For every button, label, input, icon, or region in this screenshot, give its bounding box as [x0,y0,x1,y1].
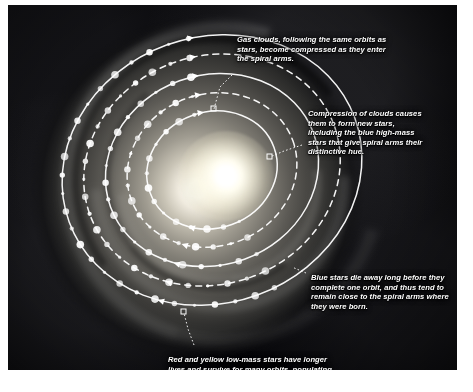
orbit-star-marker [172,301,177,306]
orbit-star-marker [106,197,110,201]
orbit-star-marker [235,258,242,265]
figure-page: Gas clouds, following the same orbits as… [0,0,473,392]
orbit-star-marker [199,264,204,269]
orbit-star-marker [104,242,109,247]
orbit-star-marker [224,280,231,287]
orbit-star-marker [238,220,241,223]
orbit-star-marker [135,136,140,141]
leader-line-gas-clouds [214,75,232,109]
orbit-star-marker [98,86,103,91]
orbit-star-marker [162,211,165,214]
orbit-star-marker [254,252,258,256]
orbit-star-marker [229,242,232,245]
orbit-star-marker [95,124,99,128]
orbit-star-marker [114,129,122,137]
orbit-star-marker [129,152,132,155]
orbit-star-marker [146,249,153,256]
orbit-star-marker [221,224,226,229]
orbit-star-marker [244,234,251,241]
orbit-star-marker [149,274,153,278]
orbit-star-marker [74,118,81,125]
orbit-path-2 [105,69,319,271]
orbit-star-marker [219,264,222,267]
orbit-star-marker [105,107,112,114]
caption-compression: Compression of clouds causes them to for… [308,109,426,157]
orbit-star-marker [111,71,119,79]
orbit-star-marker [108,146,113,151]
orbit-star-marker [145,171,149,175]
orbit-star-marker [102,179,109,186]
orbit-path-1 [130,93,294,247]
orbit-star-marker [82,178,85,181]
orbit-star-marker [116,280,123,287]
orbit-star-marker [160,233,167,240]
orbit-star-marker [129,60,133,64]
orbit-star-marker [146,49,153,56]
orbit-star-marker [133,240,136,243]
orbit-star-marker [177,241,181,245]
orbit-star-marker [163,129,168,134]
orbit-star-marker [212,301,219,308]
orbit-star-marker [82,194,89,201]
orbit-star-marker [135,290,139,294]
orbit-star-marker [154,91,157,94]
orbit-star-marker [262,267,270,275]
orbit-star-marker [86,103,89,106]
leader-line-red-stars [184,313,194,345]
orbit-star-marker [131,265,138,272]
page-margin-bottom [0,370,473,392]
orbit-star-marker [167,43,170,46]
orbit-star-marker [185,283,190,288]
orbit-star-marker [124,166,130,173]
orbit-star-marker [118,256,121,259]
orbit-star-marker [154,143,157,146]
leader-marker-compression [267,154,272,159]
orbit-star-marker [70,226,74,230]
orbit-star-marker [192,113,196,117]
orbit-star-marker [158,110,162,114]
orbit-star-marker [251,292,259,300]
orbit-star-marker [172,100,179,107]
page-margin-top [0,0,473,5]
orbit-path-3 [78,44,346,296]
orbit-star-marker [128,197,136,205]
leader-marker-red-stars [181,309,186,314]
page-edge-text-fragments [461,8,473,118]
orbit-star-marker [145,184,153,192]
orbit-star-marker [120,227,125,232]
orbit-star-marker [191,95,194,98]
orbit-star-marker [163,258,167,262]
orbit-star-marker [168,62,172,66]
orbit-star-marker [144,121,152,129]
orbit-star-marker [89,257,94,262]
orbit-star-marker [103,271,106,274]
orbit-star-marker [126,115,130,119]
orbit-star-marker [63,208,70,215]
orbit-star-marker [138,100,145,107]
orbit-star-marker [68,136,72,140]
caption-gas-clouds: Gas clouds, following the same orbits as… [237,35,397,64]
orbit-star-marker [152,199,157,204]
orbit-star-marker [86,140,94,148]
page-margin-left [0,0,8,392]
orbit-star-marker [87,212,91,216]
orbit-star-marker [119,94,122,97]
orbit-star-marker [105,164,108,167]
orbit-star-marker [137,212,142,217]
orbit-star-marker [233,299,237,303]
orbit-star-marker [192,243,200,251]
orbit-star-marker [83,159,88,164]
orbit-star-marker [93,226,101,234]
orbit-star-marker [146,155,153,162]
orbit-star-marker [193,304,196,307]
orbit-star-marker [170,81,175,86]
orbit-star-marker [175,118,183,126]
orbit-star-marker [173,218,180,225]
orbit-star-marker [77,241,85,249]
orbit-star-marker [206,284,209,287]
orbit-star-marker [149,69,157,77]
orbit-star-marker [203,225,211,233]
galaxy-photograph: Gas clouds, following the same orbits as… [8,5,457,370]
orbit-star-marker [133,80,138,85]
orbit-direction-arrow [181,241,189,249]
